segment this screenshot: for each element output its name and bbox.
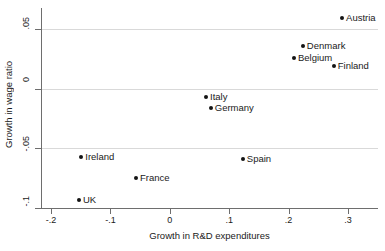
y-axis-tick-label: 0	[22, 77, 31, 82]
x-axis-tick	[289, 209, 290, 214]
y-axis-title: Growth in wage ratio	[2, 0, 15, 208]
data-point-label: Spain	[247, 154, 271, 164]
x-axis-tick	[348, 209, 349, 214]
x-axis-tick-label: -.2	[46, 215, 57, 225]
x-axis-title: Growth in R&D expenditures	[41, 230, 378, 241]
data-point	[301, 44, 305, 48]
data-point	[204, 95, 208, 99]
data-point-label: UK	[83, 195, 96, 205]
y-axis-tick-label: -.05	[22, 136, 31, 152]
x-axis-line	[41, 208, 378, 209]
y-axis-tick-label: .05	[22, 17, 31, 30]
scatter-chart: Growth in wage ratio Growth in R&D expen…	[0, 0, 385, 251]
data-point-label: France	[140, 173, 170, 183]
data-point-label: Denmark	[307, 41, 346, 51]
x-axis-tick-label: 0	[167, 215, 172, 225]
data-point	[332, 64, 336, 68]
data-point-label: Finland	[338, 61, 369, 71]
y-axis-line	[41, 8, 42, 209]
x-axis-tick-label: .3	[344, 215, 352, 225]
data-point	[77, 198, 81, 202]
x-axis-tick	[110, 209, 111, 214]
data-point	[292, 56, 296, 60]
x-axis-tick-label: .1	[225, 215, 233, 225]
x-axis-tick	[170, 209, 171, 214]
x-axis-tick-label: .2	[285, 215, 293, 225]
gridline-horizontal	[41, 89, 378, 90]
y-axis-tick	[35, 29, 41, 30]
y-axis-tick-label: -.1	[22, 196, 31, 207]
data-point	[209, 106, 213, 110]
y-axis-tick	[35, 89, 41, 90]
data-point-label: Belgium	[298, 53, 332, 63]
data-point	[79, 155, 83, 159]
data-point-label: Austria	[346, 14, 376, 24]
data-point-label: Germany	[215, 103, 254, 113]
data-point	[241, 157, 245, 161]
gridline-horizontal	[41, 148, 378, 149]
y-axis-tick	[35, 208, 41, 209]
x-axis-tick	[51, 209, 52, 214]
x-axis-tick-label: -.1	[105, 215, 116, 225]
x-axis-tick	[229, 209, 230, 214]
y-axis-tick	[35, 148, 41, 149]
data-point-label: Ireland	[85, 152, 114, 162]
gridline-horizontal	[41, 29, 378, 30]
data-point-label: Italy	[210, 92, 227, 102]
